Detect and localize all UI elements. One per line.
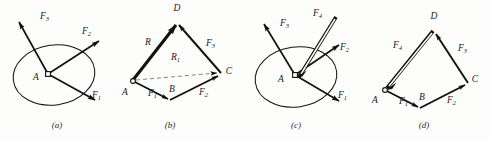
edge-label-f1-b: F1: [147, 88, 157, 99]
edge-label-r1-b: R1: [170, 52, 180, 63]
vertex-label-d-d: D: [430, 11, 438, 21]
caption-c: (c): [291, 120, 301, 130]
edge-label-f3-b: F3: [205, 38, 216, 49]
force-vector-f3-c: [264, 24, 295, 75]
vertex-label-a-b: A: [121, 87, 128, 97]
force-label-f3-a: F3: [39, 11, 50, 22]
force-vector-f1-a: [48, 74, 95, 100]
equilibrant-vector-f4-inner-c: [301, 19, 335, 74]
point-label-a-panel-c: A: [277, 74, 284, 84]
caption-d: (d): [419, 120, 430, 130]
polygon-edge-f3-b: [179, 25, 221, 73]
vertex-a-node-panel-d: [383, 88, 388, 93]
force-label-f4-c: F4: [312, 8, 323, 19]
polygon-edge-f3-d: [436, 34, 468, 83]
edge-label-r-b: R: [144, 37, 151, 47]
force-vector-f3-a: [19, 22, 48, 74]
panel-d: A B C D F1 F2 F3 F4: [371, 11, 479, 108]
point-a-node-panel-a: [46, 72, 51, 77]
force-diagram-figure: A F3 F2 F1 A B C D F1 F2 F3 R R1: [0, 0, 491, 141]
vertex-label-b-b: B: [169, 84, 175, 94]
figure-canvas: A F3 F2 F1 A B C D F1 F2 F3 R R1: [0, 0, 491, 141]
force-label-f1-c: F1: [337, 90, 347, 101]
edge-label-f3-d: F3: [457, 43, 468, 54]
force-label-f3-c: F3: [279, 18, 290, 29]
point-a-node-panel-c: [293, 73, 298, 78]
resultant-vector-r-b: [133, 25, 176, 80]
vertex-label-d-b: D: [173, 3, 181, 13]
force-label-f2-a: F2: [81, 26, 92, 37]
vertex-label-c-b: C: [226, 66, 233, 76]
vertex-label-a-d: A: [371, 95, 378, 105]
force-vector-f2-a: [48, 41, 99, 74]
edge-label-f2-d: F2: [446, 95, 457, 106]
vertex-a-node-panel-b: [131, 79, 136, 84]
auxiliary-resultant-r1-b: [136, 73, 217, 80]
edge-label-f4-d: F4: [392, 40, 403, 51]
vertex-label-c-d: C: [472, 74, 479, 84]
force-label-f1-a: F1: [91, 90, 101, 101]
caption-b: (b): [165, 120, 176, 130]
edge-label-f1-d: F1: [398, 96, 408, 107]
point-label-a-panel-a: A: [32, 72, 39, 82]
caption-a: (a): [52, 120, 63, 130]
panel-a: A F3 F2 F1: [9, 11, 101, 110]
polygon-edge-f2-d: [420, 85, 465, 108]
vertex-label-b-d: B: [419, 92, 425, 102]
force-label-f2-c: F2: [339, 42, 350, 53]
panel-b: A B C D F1 F2 F3 R R1: [121, 3, 233, 100]
polygon-edge-f2-b: [170, 76, 218, 100]
panel-c: A F3 F4 F2 F1: [251, 8, 350, 112]
edge-label-f2-b: F2: [198, 87, 209, 98]
